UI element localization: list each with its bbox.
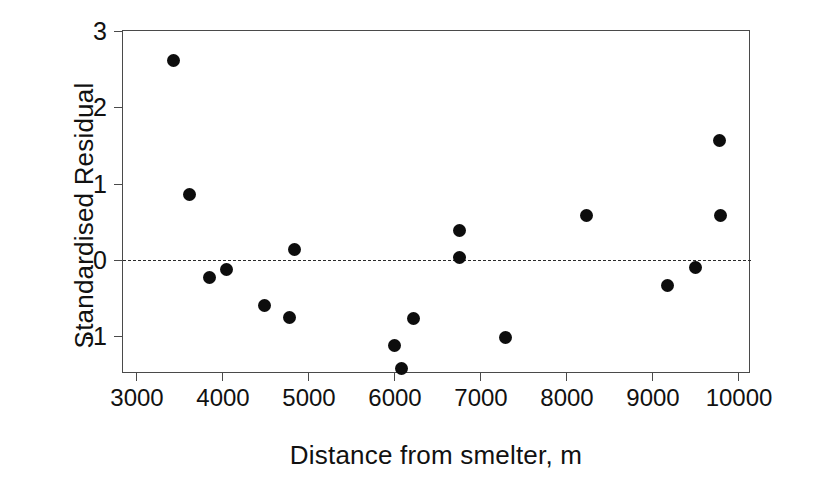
data-point xyxy=(220,263,233,276)
y-axis-tick: 2 xyxy=(114,107,123,108)
y-axis-tick-label: -1 xyxy=(85,322,107,350)
x-axis-tick: 8000 xyxy=(566,372,567,381)
x-axis-tick: 6000 xyxy=(394,372,395,381)
x-axis-tick-label: 6000 xyxy=(368,384,421,412)
data-point xyxy=(714,209,727,222)
x-axis-tick-label: 10000 xyxy=(706,384,773,412)
data-point xyxy=(453,251,466,264)
data-point xyxy=(183,188,196,201)
data-point xyxy=(453,224,466,237)
y-axis-tick: -1 xyxy=(114,336,123,337)
y-axis-tick-label: 1 xyxy=(93,170,107,198)
x-axis-tick-label: 3000 xyxy=(110,384,163,412)
x-axis-tick: 4000 xyxy=(222,372,223,381)
y-axis-tick-label: 0 xyxy=(93,246,107,274)
x-axis-tick: 10000 xyxy=(738,372,739,381)
data-point xyxy=(283,311,296,324)
data-point xyxy=(661,279,674,292)
data-point xyxy=(580,209,593,222)
data-point xyxy=(407,312,420,325)
data-point xyxy=(395,362,408,375)
y-axis-tick-label: 2 xyxy=(93,93,107,121)
y-axis-tick-label: 3 xyxy=(93,17,107,45)
zero-reference-line xyxy=(123,260,751,261)
data-point xyxy=(167,54,180,67)
x-axis-tick-label: 8000 xyxy=(540,384,593,412)
y-axis-tick: 3 xyxy=(114,31,123,32)
data-point xyxy=(713,134,726,147)
x-axis-tick: 7000 xyxy=(480,372,481,381)
y-axis-tick: 1 xyxy=(114,184,123,185)
x-axis-tick: 9000 xyxy=(652,372,653,381)
x-axis-title: Distance from smelter, m xyxy=(135,440,737,471)
data-point xyxy=(258,299,271,312)
data-point xyxy=(288,243,301,256)
x-axis-tick-label: 7000 xyxy=(454,384,507,412)
scatter-plot-figure: Standardised Residual 3210-1 30004000500… xyxy=(0,0,818,490)
x-axis-tick: 3000 xyxy=(136,372,137,381)
data-point xyxy=(388,339,401,352)
x-axis-tick-label: 4000 xyxy=(196,384,249,412)
y-axis-tick: 0 xyxy=(114,260,123,261)
x-axis-tick: 5000 xyxy=(308,372,309,381)
x-axis-tick-label: 9000 xyxy=(626,384,679,412)
data-point xyxy=(689,261,702,274)
data-point xyxy=(499,331,512,344)
x-axis-tick-label: 5000 xyxy=(282,384,335,412)
data-point xyxy=(203,271,216,284)
plot-area: 3210-1 300040005000600070008000900010000 xyxy=(122,30,750,373)
